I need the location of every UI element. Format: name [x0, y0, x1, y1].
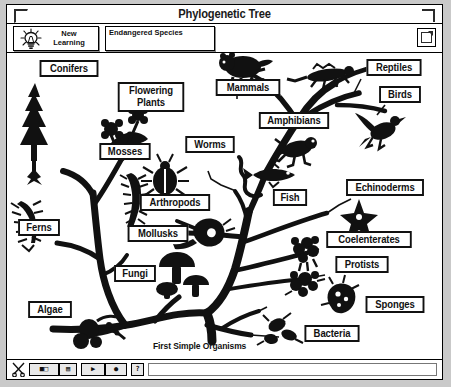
new-learning-label: New Learning	[46, 30, 92, 47]
fungi-illustration	[156, 252, 209, 299]
new-learning-button[interactable]: New Learning	[13, 26, 99, 51]
endangered-species-button[interactable]: Endangered Species	[105, 26, 215, 51]
stamp-button[interactable]: ▤	[59, 363, 77, 376]
label-mollusks[interactable]: Mollusks	[128, 225, 189, 242]
label-coelenterates[interactable]: Coelenterates	[326, 231, 412, 248]
palette-glyph: ■□	[40, 366, 48, 373]
label-flowering-line2: Plants	[137, 97, 165, 109]
bacteria-illustration	[257, 313, 303, 345]
phylogenetic-tree-graphic	[7, 53, 442, 359]
label-reptiles[interactable]: Reptiles	[366, 59, 421, 76]
zoom-box-icon[interactable]	[422, 9, 435, 22]
record-glyph: ●	[114, 366, 118, 373]
label-birds[interactable]: Birds	[379, 86, 421, 103]
help-button[interactable]: ?	[131, 363, 144, 376]
label-flowering-plants[interactable]: Flowering Plants	[118, 82, 185, 112]
label-bacteria[interactable]: Bacteria	[304, 325, 359, 342]
label-fungi[interactable]: Fungi	[114, 265, 156, 282]
label-mosses[interactable]: Mosses	[99, 143, 150, 160]
coelenterate-illustration	[291, 236, 319, 271]
label-sponges[interactable]: Sponges	[366, 296, 425, 313]
status-field[interactable]	[148, 363, 437, 376]
label-ferns[interactable]: Ferns	[18, 219, 60, 236]
application-window: Phylogenetic Tree	[6, 4, 443, 380]
record-button[interactable]: ●	[105, 363, 127, 376]
status-bar: ■□ ▤ ▶ ● ?	[7, 359, 442, 379]
window-title: Phylogenetic Tree	[22, 7, 427, 21]
label-flowering-line1: Flowering	[129, 85, 173, 97]
tree-canvas[interactable]: Conifers Flowering Plants Mosses Ferns A…	[7, 53, 442, 359]
scissors-icon[interactable]	[12, 362, 25, 377]
screen: Phylogenetic Tree	[0, 0, 451, 387]
label-mammals[interactable]: Mammals	[216, 79, 281, 96]
stamp-glyph: ▤	[66, 366, 70, 373]
label-conifers[interactable]: Conifers	[40, 60, 99, 77]
sponge-illustration	[321, 275, 359, 313]
bird-illustration	[355, 113, 406, 149]
label-amphibians[interactable]: Amphibians	[259, 112, 329, 129]
page-icon[interactable]	[417, 28, 436, 47]
movie-glyph: ▶	[91, 366, 95, 373]
endangered-species-label: Endangered Species	[109, 29, 183, 38]
help-glyph: ?	[135, 366, 139, 373]
arthropod-illustration	[141, 154, 189, 196]
movie-button[interactable]: ▶	[81, 363, 105, 376]
conifer-illustration	[20, 83, 48, 185]
new-learning-line2: Learning	[53, 38, 85, 47]
lightbulb-icon	[18, 28, 44, 50]
label-worms[interactable]: Worms	[185, 136, 234, 153]
protist-illustration	[285, 271, 325, 297]
root-caption: First Simple Organisms	[153, 341, 246, 351]
label-arthropods[interactable]: Arthropods	[140, 194, 210, 211]
label-echinoderms[interactable]: Echinoderms	[346, 179, 424, 196]
label-algae[interactable]: Algae	[28, 301, 72, 318]
toolbar: New Learning Endangered Species	[7, 24, 442, 53]
label-fish[interactable]: Fish	[273, 189, 307, 206]
reptile-illustration	[287, 64, 354, 89]
palette-button[interactable]: ■□	[29, 363, 59, 376]
title-bar: Phylogenetic Tree	[7, 5, 442, 24]
label-protists[interactable]: Protists	[335, 256, 388, 273]
